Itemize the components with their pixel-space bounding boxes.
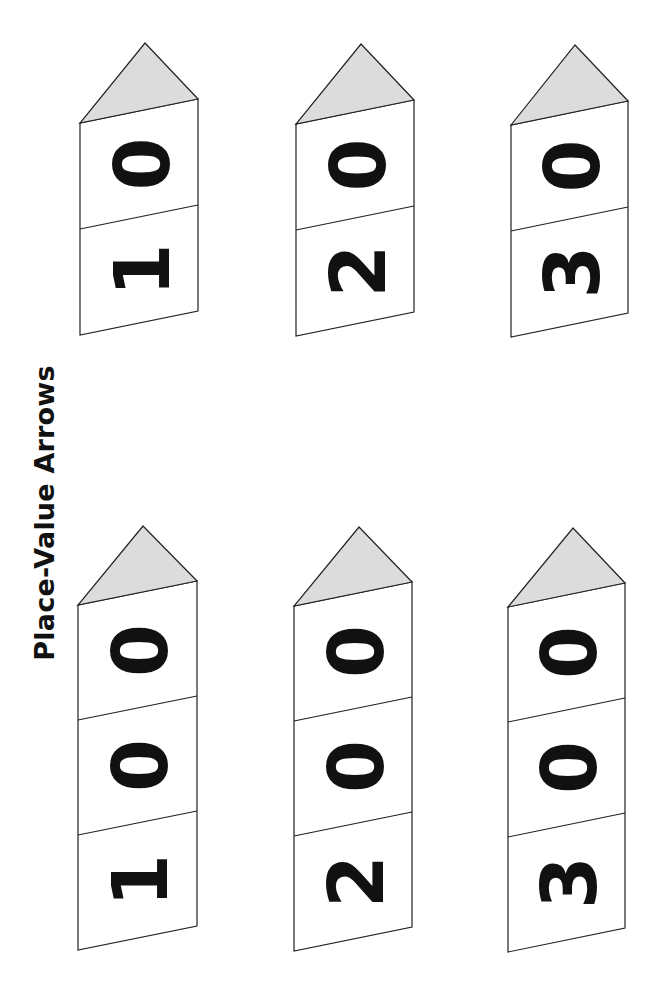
place-value-digit: 0: [312, 740, 401, 793]
place-value-digit: 0: [314, 139, 403, 192]
place-value-digit: 0: [96, 624, 185, 677]
place-value-digit: 0: [98, 138, 187, 191]
place-value-arrows: 010203001002003: [0, 0, 664, 1004]
place-value-digit: 2: [314, 245, 403, 298]
worksheet-page: Place-Value Arrows 010203001002003: [0, 0, 664, 1004]
place-value-arrow-card: 01: [80, 43, 198, 335]
place-value-digit: 1: [96, 854, 185, 907]
place-value-digit: 3: [525, 856, 614, 909]
place-value-digit: 0: [525, 741, 614, 794]
place-value-digit: 3: [528, 246, 617, 299]
place-value-digit: 0: [96, 739, 185, 792]
place-value-digit: 0: [525, 626, 614, 679]
place-value-arrow-card: 003: [508, 528, 625, 952]
place-value-arrow-card: 03: [511, 45, 628, 337]
place-value-digit: 0: [312, 625, 401, 678]
place-value-digit: 1: [98, 244, 187, 297]
place-value-arrow-card: 02: [296, 44, 414, 336]
place-value-digit: 0: [528, 140, 617, 193]
place-value-digit: 2: [312, 855, 401, 908]
place-value-arrow-card: 001: [78, 526, 197, 950]
place-value-arrow-card: 002: [294, 527, 412, 951]
